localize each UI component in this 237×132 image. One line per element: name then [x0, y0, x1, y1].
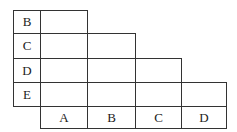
- column-label-c: C: [135, 106, 182, 129]
- grid-cell: [40, 82, 88, 107]
- grid-cell: [87, 58, 136, 83]
- label-text: B: [107, 110, 116, 126]
- row-label-d: D: [13, 58, 41, 83]
- grid-cell: [135, 82, 182, 107]
- label-text: C: [23, 38, 32, 54]
- row-label-e: E: [13, 82, 41, 107]
- column-label-b: B: [87, 106, 136, 129]
- label-text: D: [22, 63, 31, 79]
- grid-cell: [40, 33, 88, 59]
- grid-cell: [87, 82, 136, 107]
- row-label-c: C: [13, 33, 41, 59]
- label-text: A: [59, 110, 68, 126]
- grid-cell: [40, 10, 88, 34]
- label-text: E: [23, 87, 31, 103]
- column-label-a: A: [40, 106, 88, 129]
- row-label-b: B: [13, 10, 41, 34]
- label-text: D: [199, 110, 208, 126]
- label-text: B: [23, 14, 32, 30]
- grid-cell: [135, 58, 182, 83]
- column-label-d: D: [181, 106, 227, 129]
- label-text: C: [154, 110, 163, 126]
- grid-cell: [40, 58, 88, 83]
- grid-cell: [87, 33, 136, 59]
- grid-cell: [181, 82, 227, 107]
